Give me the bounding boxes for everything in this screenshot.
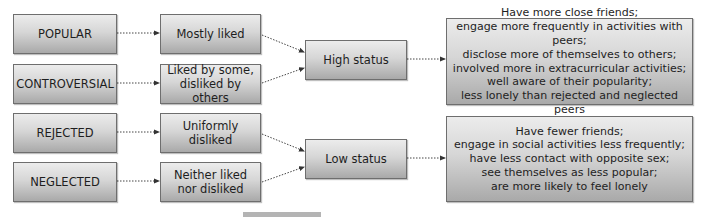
outcome-line: have less contact with opposite sex; [469,152,669,166]
evaluation-line: disliked by others [161,77,260,105]
evaluation-neither: Neither liked nor disliked [160,162,261,202]
evaluation-line: Neither liked [174,168,247,182]
category-label: POPULAR [38,27,92,41]
category-rejected: REJECTED [13,113,117,153]
evaluation-liked-by-some: Liked by some, disliked by others [160,64,261,104]
status-label: High status [323,53,388,67]
category-neglected: NEGLECTED [13,162,117,202]
status-low: Low status [305,139,407,179]
category-controversial: CONTROVERSIAL [13,64,117,104]
category-label: NEGLECTED [30,175,100,189]
category-label: CONTROVERSIAL [16,77,114,91]
outcome-line: engage in social activities less frequen… [454,138,685,152]
evaluation-label: Uniformly disliked [161,119,260,147]
bottom-divider-bar [243,212,321,217]
outcomes-high-status: Have more close friends; engage more fre… [446,18,693,105]
status-label: Low status [325,152,387,166]
category-label: REJECTED [36,126,93,140]
evaluation-line: Liked by some, [167,63,254,77]
outcome-line: disclose more of themselves to others; [463,48,677,62]
category-popular: POPULAR [13,14,117,54]
evaluation-uniformly-disliked: Uniformly disliked [160,113,261,153]
evaluation-label: Mostly liked [176,27,244,41]
outcome-line: are more likely to feel lonely [491,180,648,194]
evaluation-mostly-liked: Mostly liked [160,14,261,54]
outcome-line: less lonely than rejected and neglected … [447,89,692,117]
outcome-line: well aware of their popularity; [487,75,652,89]
evaluation-line: nor disliked [177,182,243,196]
outcome-line: involved more in extracurricular activit… [453,62,686,76]
outcome-line: see themselves as less popular; [481,166,657,180]
outcome-line: Have fewer friends; [516,125,624,139]
outcome-line: Have more close friends; [501,6,638,20]
outcomes-low-status: Have fewer friends; engage in social act… [446,116,693,202]
outcome-line: engage more frequently in activities wit… [447,20,692,48]
status-high: High status [305,40,407,80]
